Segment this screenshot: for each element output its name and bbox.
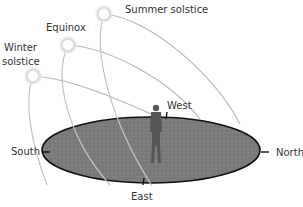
equinox-label: Equinox [46,22,86,34]
celestial-sun-path-diagram: Summer solstice Equinox Winter solstice … [0,0,303,207]
east-tick [143,178,144,185]
winter-arc-back [33,76,160,118]
east-label: East [131,191,153,203]
winter-arc-front [29,76,47,185]
north-label: North [276,147,303,159]
west-tick [166,112,167,119]
equinox-sun-icon [58,35,78,55]
winter-solstice-label-line1: Winter [4,42,37,54]
winter-solstice-label-line2: solstice [2,56,40,68]
winter-sun-icon [23,66,43,86]
south-label: South [11,146,40,158]
west-label: West [167,100,192,112]
summer-solstice-label: Summer solstice [125,4,208,16]
summer-sun-icon [94,4,114,24]
